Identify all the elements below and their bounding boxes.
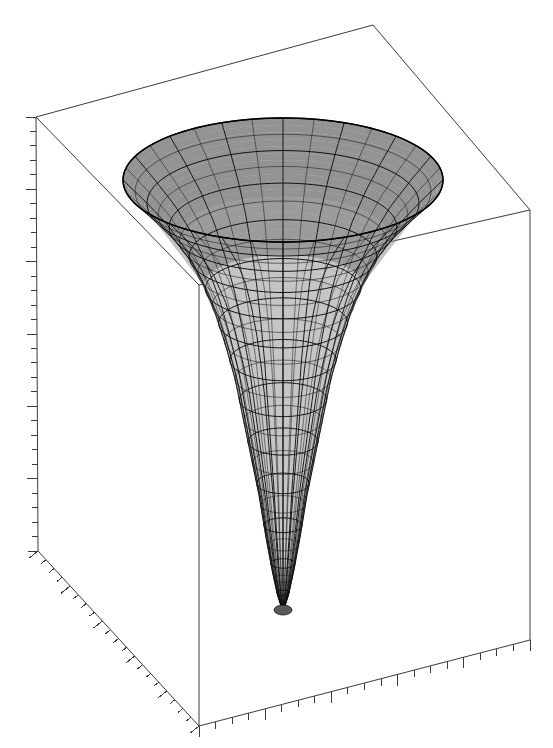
y-tick-minor <box>49 569 54 573</box>
y-tick-minor <box>81 604 86 608</box>
y-tick-minor <box>170 700 175 704</box>
y-tick-minor <box>105 630 110 634</box>
y-tick-major <box>29 551 38 558</box>
y-tick-minor <box>89 612 94 616</box>
y-tick-major <box>190 726 199 733</box>
y-tick-major <box>126 656 135 663</box>
y-axis-ticks <box>29 551 199 733</box>
funnel-surface <box>123 118 443 615</box>
plot-canvas <box>0 0 553 748</box>
x-axis-ticks <box>199 640 530 737</box>
y-tick-minor <box>186 717 191 721</box>
y-tick-minor <box>146 674 151 678</box>
box-edge-top-back-left <box>36 25 373 117</box>
y-tick-major <box>61 586 70 593</box>
y-tick-minor <box>154 682 159 686</box>
y-tick-minor <box>57 577 62 581</box>
y-tick-minor <box>114 639 119 643</box>
y-tick-minor <box>73 595 78 599</box>
y-tick-minor <box>178 709 183 713</box>
y-tick-minor <box>122 647 127 651</box>
y-tick-major <box>93 621 102 628</box>
y-tick-minor <box>138 665 143 669</box>
surface-plot-figure <box>0 0 553 748</box>
funnel-tip <box>274 605 292 615</box>
y-tick-minor <box>41 560 46 564</box>
y-tick-major <box>158 691 167 698</box>
